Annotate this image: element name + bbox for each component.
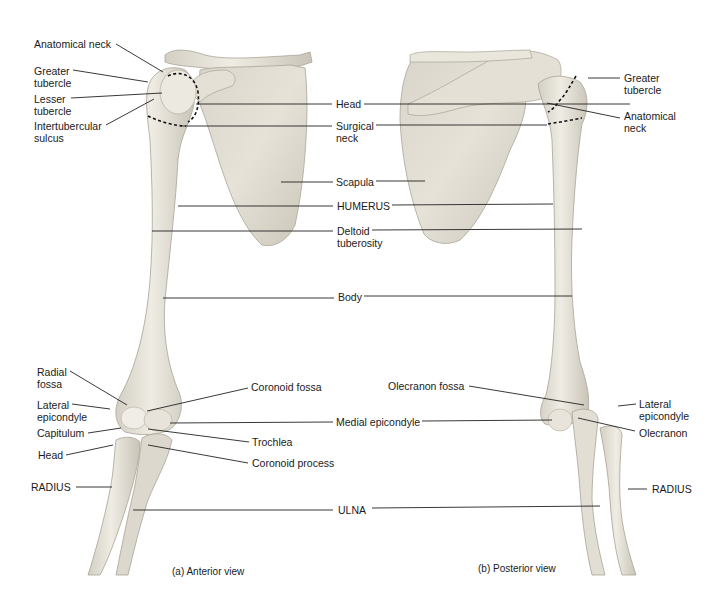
posterior-ulna xyxy=(572,409,605,575)
label-olecranon-fossa: Olecranon fossa xyxy=(388,380,464,392)
label-surgical-neck: Surgical neck xyxy=(336,120,374,144)
label-greater-tubercle-posterior: Greater tubercle xyxy=(624,72,661,96)
label-olecranon: Olecranon xyxy=(639,427,687,439)
posterior-radius xyxy=(600,426,636,575)
label-capitulum: Capitulum xyxy=(37,427,84,439)
label-humerus: HUMERUS xyxy=(337,200,390,212)
label-radius-posterior: RADIUS xyxy=(652,483,692,495)
label-medial-epicondyle: Medial epicondyle xyxy=(336,416,420,428)
label-intertubercular-sulcus: Intertubercular sulcus xyxy=(34,120,102,144)
label-anatomical-neck-anterior: Anatomical neck xyxy=(34,38,111,50)
label-anatomical-neck-posterior: Anatomical neck xyxy=(624,110,676,134)
label-lateral-epicondyle-anterior: Lateral epicondyle xyxy=(37,399,87,423)
caption-posterior-view: (b) Posterior view xyxy=(478,563,556,574)
posterior-humerus xyxy=(538,76,589,425)
label-lateral-epicondyle-posterior: Lateral epicondyle xyxy=(639,398,689,422)
label-head-radius-anterior: Head xyxy=(38,449,63,461)
humerus-anatomy-figure: Anatomical neck Greater tubercle Lesser … xyxy=(0,0,718,591)
posterior-view-bones xyxy=(400,50,636,575)
label-radius-anterior: RADIUS xyxy=(31,481,71,493)
label-body: Body xyxy=(338,291,362,303)
caption-anterior-view: (a) Anterior view xyxy=(172,566,244,577)
label-ulna: ULNA xyxy=(338,504,366,516)
label-greater-tubercle-anterior: Greater tubercle xyxy=(34,65,71,89)
label-coronoid-fossa: Coronoid fossa xyxy=(251,381,322,393)
anterior-view-bones xyxy=(88,50,312,575)
label-deltoid-tuberosity: Deltoid tuberosity xyxy=(337,225,383,249)
label-radial-fossa: Radial fossa xyxy=(37,366,67,390)
anterior-humerus xyxy=(116,68,195,435)
label-lesser-tubercle: Lesser tubercle xyxy=(34,93,71,117)
label-head-shared: Head xyxy=(336,98,361,110)
label-coronoid-process: Coronoid process xyxy=(252,457,334,469)
label-trochlea: Trochlea xyxy=(252,436,292,448)
label-scapula: Scapula xyxy=(336,176,374,188)
